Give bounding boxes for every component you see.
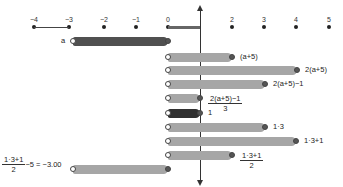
endpoint-end[interactable] — [294, 67, 300, 73]
endpoint-end[interactable] — [262, 124, 268, 130]
endpoint-start[interactable] — [165, 54, 171, 60]
tick-label: 0 — [166, 16, 170, 23]
bar-a-plus-5[interactable] — [168, 53, 232, 62]
numerator: 2(a+5)−1 — [208, 94, 242, 104]
tick-point[interactable] — [262, 25, 266, 29]
tick-label: −3 — [65, 16, 73, 23]
bar-a[interactable] — [73, 37, 168, 46]
denominator: 3 — [223, 104, 227, 113]
endpoint-start[interactable] — [70, 166, 76, 172]
tick-point[interactable] — [102, 25, 106, 29]
tick-label: −4 — [30, 16, 38, 23]
endpoint-end[interactable] — [197, 110, 203, 116]
expression-label: 1·3 — [273, 122, 284, 131]
endpoint-start[interactable] — [165, 95, 171, 101]
endpoint-start[interactable] — [165, 124, 171, 130]
expression-label: 1·3+1 — [304, 136, 323, 145]
tick-label: 3 — [262, 16, 266, 23]
endpoint-end[interactable] — [165, 166, 171, 172]
tick-label: 5 — [327, 16, 331, 23]
endpoint-start[interactable] — [165, 110, 171, 116]
tick-label: −2 — [100, 16, 108, 23]
fraction: 2(a+5)−13 — [208, 94, 242, 113]
expression-label: a — [61, 36, 65, 45]
segment-minus4-minus3 — [34, 27, 69, 28]
tick-point[interactable] — [294, 25, 298, 29]
endpoint-end[interactable] — [293, 138, 299, 144]
segment-0-1 — [168, 26, 200, 29]
fraction: 1·3+12 — [240, 151, 263, 170]
tick-label: 4 — [294, 16, 298, 23]
result-text: −5 = −3.00 — [25, 160, 61, 169]
expression-label: 1·3+12−5 = −3.00 — [2, 155, 61, 174]
endpoint-end[interactable] — [229, 152, 235, 158]
bar-half[interactable] — [168, 151, 232, 160]
arrow-down-icon — [197, 180, 203, 186]
arrow-up-icon — [197, 5, 203, 11]
denominator: 2 — [250, 161, 254, 170]
bar-div-3[interactable] — [168, 94, 200, 103]
bar-one[interactable] — [168, 109, 200, 118]
endpoint-start[interactable] — [165, 81, 171, 87]
fraction: 1·3+12 — [2, 155, 25, 174]
tick-point[interactable] — [327, 25, 331, 29]
expression-label: 2(a+5)−1 — [273, 79, 303, 88]
bar-two-a-plus-5[interactable] — [168, 66, 297, 75]
bar-one-times-3[interactable] — [168, 123, 265, 132]
endpoint-end[interactable] — [229, 54, 235, 60]
tick-label: −1 — [132, 16, 140, 23]
numerator: 1·3+1 — [240, 151, 263, 161]
expression-label: 2(a+5) — [305, 65, 327, 74]
expression-label: 2(a+5)−13 — [208, 94, 242, 113]
endpoint-end[interactable] — [262, 81, 268, 87]
expression-label: (a+5) — [240, 52, 258, 61]
bar-result[interactable] — [73, 165, 168, 174]
expression-label: 1 — [208, 108, 212, 117]
endpoint-start[interactable] — [70, 38, 76, 44]
bar-one-times-3-plus-1[interactable] — [168, 137, 296, 146]
endpoint-start[interactable] — [165, 138, 171, 144]
tick-label: 2 — [230, 16, 234, 23]
endpoint-end[interactable] — [197, 95, 203, 101]
expression-label: 1·3+12 — [240, 151, 263, 170]
denominator: 2 — [12, 165, 16, 174]
endpoint-start[interactable] — [165, 67, 171, 73]
tick-point[interactable] — [230, 25, 234, 29]
endpoint-end[interactable] — [165, 38, 171, 44]
tick-point[interactable] — [134, 25, 138, 29]
endpoint-start[interactable] — [165, 152, 171, 158]
bar-two-a-plus-5-minus-1[interactable] — [168, 80, 265, 89]
numerator: 1·3+1 — [2, 155, 25, 165]
